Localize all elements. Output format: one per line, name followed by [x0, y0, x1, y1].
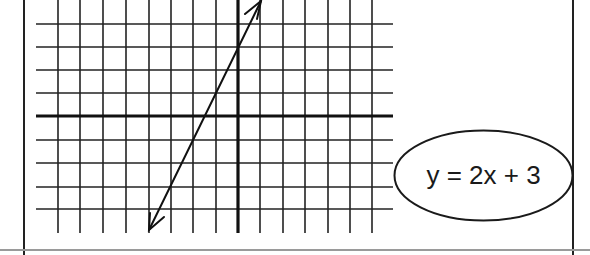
graph-figure: y = 2x + 3 [0, 0, 590, 255]
equation-label: y = 2x + 3 [394, 130, 573, 221]
